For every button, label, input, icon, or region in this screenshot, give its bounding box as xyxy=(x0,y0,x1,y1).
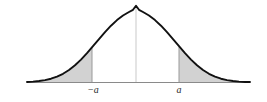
normal-distribution-figure: −a a xyxy=(0,0,267,102)
x-axis-tick-label-negative-a: −a xyxy=(78,85,108,95)
x-axis-tick-label-positive-a: a xyxy=(166,85,192,95)
right-tail-shading xyxy=(27,6,250,82)
left-tail-shading xyxy=(27,6,250,82)
bell-curve-line xyxy=(27,6,250,82)
shaded-tail-regions xyxy=(27,6,250,82)
distribution-plot xyxy=(0,0,267,102)
